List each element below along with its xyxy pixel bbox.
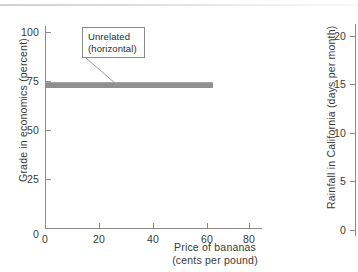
- y-axis-left-title: Grade in economics (percent): [17, 25, 29, 195]
- callout-leader-line: [0, 0, 358, 272]
- y-axis-left-line: [45, 26, 46, 229]
- x-axis-title: Price of bananas (cents per pound): [155, 241, 275, 267]
- x-axis-tick-80: [249, 223, 250, 229]
- x-axis-title-main: Price of bananas: [174, 241, 256, 253]
- y-axis-right-label-0: 0: [320, 224, 346, 236]
- y-axis-left-tick-50: [45, 130, 51, 131]
- y-axis-right-tick-10: [350, 133, 356, 134]
- y-axis-left-tick-25: [45, 179, 51, 180]
- chart-figure: 100 75 50 25 0 Grade in economics (perce…: [0, 0, 358, 272]
- annotation-callout-box: Unrelated (horizontal): [82, 27, 145, 58]
- y-axis-right-tick-0: [350, 230, 356, 231]
- x-axis-label-0: 0: [30, 233, 60, 245]
- data-series-unrelated-horizontal: [45, 82, 213, 88]
- y-axis-right-line: [355, 24, 356, 236]
- x-axis-label-20: 20: [84, 233, 114, 245]
- y-axis-right-tick-5: [350, 181, 356, 182]
- x-axis-tick-20: [99, 223, 100, 229]
- annotation-line-1: Unrelated: [88, 31, 144, 43]
- y-axis-left-tick-100: [45, 32, 51, 33]
- y-axis-right-tick-15: [350, 84, 356, 85]
- x-axis-tick-60: [207, 223, 208, 229]
- scan-artifact: [0, 4, 358, 6]
- y-axis-right-tick-20: [350, 36, 356, 37]
- y-axis-right-title: Rainfall in California (days per month): [325, 39, 337, 209]
- x-axis-title-unit: (cents per pound): [155, 254, 275, 267]
- annotation-line-2: (horizontal): [88, 43, 144, 55]
- x-axis-tick-40: [153, 223, 154, 229]
